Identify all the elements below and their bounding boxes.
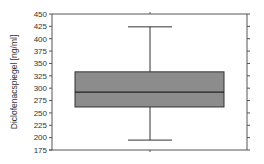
y-tick-label: 350 — [34, 59, 48, 68]
y-tick-label: 200 — [34, 133, 48, 142]
y-tick-label: 400 — [34, 35, 48, 44]
y-tick-label: 300 — [34, 84, 48, 93]
y-tick-label: 375 — [34, 47, 48, 56]
y-tick-label: 175 — [34, 146, 48, 155]
y-tick-label: 450 — [34, 10, 48, 19]
y-tick-label: 275 — [34, 96, 48, 105]
y-axis-label: Diclofenacspiegel [ng/ml] — [9, 21, 21, 143]
y-tick-label: 325 — [34, 72, 48, 81]
y-tick-label: 250 — [34, 109, 48, 118]
interquartile-box — [75, 72, 224, 107]
chart-canvas: 175200225250275300325350375400425450 — [0, 0, 264, 164]
y-tick-label: 225 — [34, 121, 48, 130]
y-tick-label: 425 — [34, 22, 48, 31]
